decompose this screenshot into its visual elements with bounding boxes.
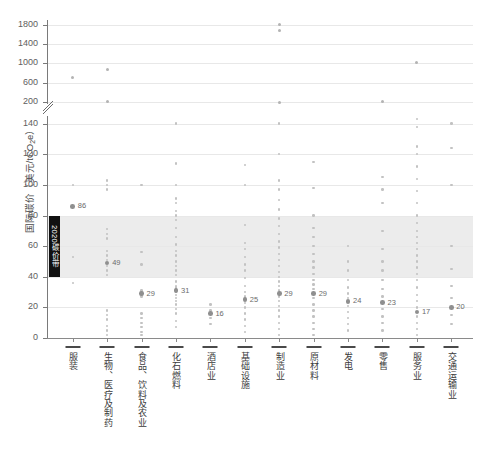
x-axis-category-label: 发电 bbox=[343, 352, 353, 371]
x-axis-category-label: 交通运输业 bbox=[446, 352, 456, 399]
median-marker bbox=[70, 204, 75, 209]
y-axis-tick bbox=[43, 185, 47, 186]
plot-area-lower bbox=[48, 116, 473, 338]
y-axis-tick bbox=[43, 124, 47, 125]
data-point bbox=[416, 279, 418, 281]
data-point bbox=[244, 256, 246, 258]
data-point bbox=[312, 161, 314, 163]
y-axis-tick-label: 60 bbox=[0, 241, 38, 250]
x-axis-tick bbox=[348, 338, 349, 342]
data-point bbox=[244, 184, 246, 186]
data-point bbox=[450, 184, 452, 186]
y-axis-tick-label: 80 bbox=[0, 211, 38, 220]
x-axis-category-dash bbox=[341, 346, 356, 348]
data-point bbox=[175, 303, 177, 305]
y-axis-tick bbox=[43, 154, 47, 155]
median-marker bbox=[346, 299, 351, 304]
data-point bbox=[244, 318, 246, 320]
gridline bbox=[48, 307, 473, 308]
band-label: 2020碳价带 bbox=[49, 216, 60, 277]
data-point bbox=[416, 254, 418, 256]
data-point bbox=[244, 331, 246, 333]
y-axis-tick-label: 600 bbox=[0, 78, 38, 87]
x-axis-category-label: 服务业 bbox=[412, 352, 422, 380]
data-point bbox=[175, 214, 177, 216]
data-point bbox=[312, 283, 314, 285]
data-point bbox=[244, 306, 246, 308]
x-axis-category-label: 基础设施 bbox=[240, 352, 250, 390]
data-point bbox=[416, 126, 418, 128]
y-axis-tick-label: 20 bbox=[0, 302, 38, 311]
data-point bbox=[72, 184, 74, 186]
data-point bbox=[244, 269, 246, 271]
data-point bbox=[106, 68, 109, 71]
data-point bbox=[106, 100, 109, 103]
gridline bbox=[48, 44, 473, 45]
median-marker bbox=[243, 297, 248, 302]
data-point bbox=[312, 187, 314, 189]
data-point bbox=[244, 325, 246, 327]
x-axis-tick bbox=[382, 338, 383, 342]
x-axis-category-label: 食品、饮料及农业 bbox=[137, 352, 147, 427]
data-point bbox=[312, 309, 314, 311]
data-point bbox=[381, 188, 383, 190]
data-point bbox=[416, 328, 418, 330]
median-value-label: 31 bbox=[181, 287, 189, 295]
data-point bbox=[450, 314, 452, 316]
x-axis-category-label: 零售 bbox=[378, 352, 388, 371]
data-point bbox=[312, 266, 314, 268]
gridline bbox=[48, 63, 473, 64]
data-point bbox=[416, 165, 418, 167]
y-axis-tick bbox=[43, 83, 47, 84]
data-point bbox=[312, 273, 314, 275]
y-axis-tick bbox=[43, 44, 47, 45]
data-point bbox=[312, 315, 314, 317]
carbon-price-strip-chart: 国际碳价（美元/tCO2e） 2020碳价带 86492931162529292… bbox=[0, 0, 481, 450]
y-axis-tick bbox=[43, 216, 47, 217]
data-point bbox=[312, 236, 314, 238]
data-point bbox=[312, 322, 314, 324]
data-point bbox=[312, 260, 314, 262]
median-value-label: 20 bbox=[456, 303, 464, 311]
data-point bbox=[450, 245, 452, 247]
data-point bbox=[416, 230, 418, 232]
y-axis-tick-label: 100 bbox=[0, 180, 38, 189]
data-point bbox=[381, 329, 383, 331]
data-point bbox=[381, 322, 383, 324]
median-value-label: 24 bbox=[353, 297, 361, 305]
data-point bbox=[381, 260, 383, 262]
y-axis-tick-label: 1000 bbox=[0, 58, 38, 67]
y-axis-lower bbox=[47, 116, 48, 338]
data-point bbox=[312, 288, 314, 290]
data-point bbox=[312, 279, 314, 281]
median-value-label: 17 bbox=[422, 308, 430, 316]
data-point bbox=[381, 269, 383, 271]
data-point bbox=[140, 263, 142, 265]
median-marker bbox=[311, 291, 316, 296]
data-point bbox=[416, 315, 418, 317]
y-axis-tick bbox=[43, 307, 47, 308]
gridline bbox=[48, 124, 473, 125]
data-point bbox=[175, 269, 177, 271]
data-point bbox=[175, 280, 177, 282]
data-point bbox=[416, 286, 418, 288]
x-axis-category-dash bbox=[169, 346, 184, 348]
x-axis bbox=[47, 338, 473, 339]
x-axis-category-dash bbox=[65, 346, 80, 348]
data-point bbox=[312, 303, 314, 305]
data-point bbox=[416, 145, 418, 147]
x-axis-category-dash bbox=[272, 346, 287, 348]
y-axis-tick bbox=[43, 25, 47, 26]
x-axis-category-dash bbox=[375, 346, 390, 348]
y-axis-upper bbox=[47, 20, 48, 104]
y-axis-tick bbox=[43, 246, 47, 247]
y-axis-tick bbox=[43, 338, 47, 339]
data-point bbox=[347, 260, 349, 262]
data-point bbox=[416, 273, 418, 275]
data-point bbox=[416, 214, 418, 216]
data-point bbox=[244, 312, 246, 314]
x-axis-category-dash bbox=[203, 346, 218, 348]
data-point bbox=[416, 306, 418, 308]
data-point bbox=[347, 329, 349, 331]
data-point bbox=[175, 243, 177, 245]
